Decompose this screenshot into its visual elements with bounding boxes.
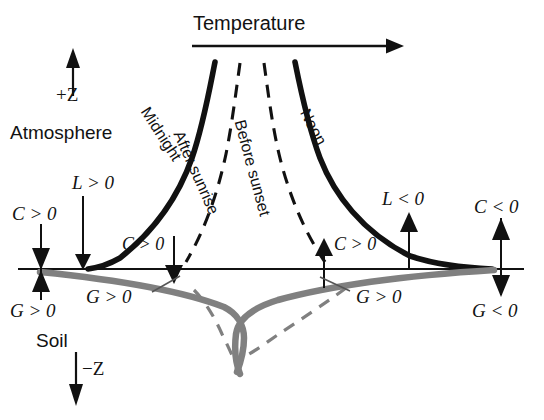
curve-soil-midnight	[40, 272, 244, 372]
temperature-axis-arrow	[192, 39, 404, 54]
region-label-atmosphere: Atmosphere	[10, 122, 112, 144]
minus-z-axis-arrow	[69, 352, 83, 406]
flux-label-l-positive: L > 0	[72, 172, 114, 194]
flux-arrow-c-positive-mid	[165, 236, 183, 284]
region-label-soil: Soil	[36, 330, 68, 352]
curve-before-sunset	[264, 63, 325, 262]
flux-label-c-positive-left: C > 0	[12, 203, 57, 225]
flux-label-g-positive-left: G > 0	[10, 300, 56, 322]
flux-arrow-l-positive	[75, 196, 91, 270]
diagram-canvas: Temperature +Z Atmosphere Soil −Z Midnig…	[0, 0, 544, 420]
curve-noon	[295, 62, 492, 269]
flux-label-g-negative: G < 0	[472, 300, 518, 322]
flux-label-g-positive-right: G > 0	[356, 286, 402, 308]
flux-label-l-negative: L < 0	[382, 188, 424, 210]
axis-label-minus-z: −Z	[82, 358, 104, 380]
flux-label-c-positive-right: C > 0	[334, 234, 376, 255]
flux-label-c-negative: C < 0	[474, 196, 519, 218]
flux-arrow-c-positive-right	[315, 238, 333, 288]
flux-arrow-g-negative	[492, 269, 510, 297]
flux-label-g-positive-mid: G > 0	[86, 286, 132, 308]
axis-label-plus-z: +Z	[56, 84, 78, 106]
axis-label-temperature: Temperature	[193, 12, 305, 35]
flux-arrow-c-negative	[492, 218, 510, 269]
flux-label-c-positive-mid: C > 0	[122, 234, 164, 255]
